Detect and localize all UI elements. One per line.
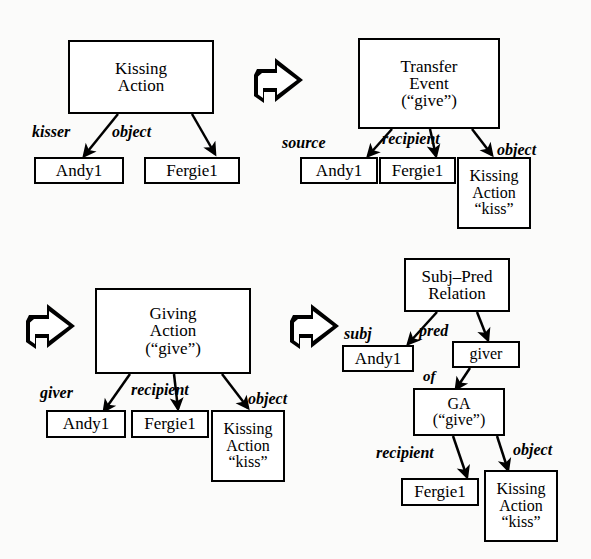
edge-label-recipient: recipient bbox=[131, 381, 189, 399]
node-line: “kiss” bbox=[228, 454, 267, 471]
node-line: Andy1 bbox=[355, 350, 401, 367]
node-line: “kiss” bbox=[501, 514, 540, 531]
fergie1-node[interactable]: Fergie1 bbox=[379, 157, 456, 184]
node-line: (“give”) bbox=[145, 340, 201, 357]
andy1-node[interactable]: Andy1 bbox=[34, 157, 124, 184]
node-line: giver bbox=[470, 346, 503, 362]
transform-arrow-2 bbox=[22, 302, 80, 358]
edge-label-object: object bbox=[112, 123, 151, 141]
ga-give-node[interactable]: GA (“give”) bbox=[413, 388, 505, 436]
edge-label-recipient: recipient bbox=[376, 444, 434, 462]
transform-arrow-1 bbox=[250, 56, 308, 112]
edge-label-kisser: kisser bbox=[32, 123, 70, 141]
node-line: (“give”) bbox=[433, 412, 485, 428]
node-line: GA bbox=[447, 396, 470, 412]
node-line: Andy1 bbox=[63, 415, 109, 432]
node-line: Action bbox=[472, 185, 516, 202]
node-line: (“give”) bbox=[401, 92, 457, 109]
edge-label-object: object bbox=[248, 390, 287, 408]
transform-arrow-3 bbox=[286, 302, 344, 358]
andy1-node[interactable]: Andy1 bbox=[46, 410, 126, 438]
node-line: Action bbox=[118, 77, 164, 94]
edge-label-object: object bbox=[513, 441, 552, 459]
node-line: Fergie1 bbox=[392, 162, 444, 179]
node-line: Event bbox=[409, 75, 449, 92]
node-line: Fergie1 bbox=[414, 483, 466, 500]
edge-label-object: object bbox=[497, 141, 536, 159]
node-line: “kiss” bbox=[474, 201, 513, 218]
kissing-action-node[interactable]: Kissing Action bbox=[68, 40, 214, 114]
node-line: Action bbox=[226, 438, 270, 455]
giving-action-node[interactable]: Giving Action (“give”) bbox=[95, 288, 251, 374]
node-line: Fergie1 bbox=[144, 415, 196, 432]
edge-label-of: of bbox=[423, 368, 436, 385]
node-line: Action bbox=[499, 498, 543, 515]
node-line: Transfer bbox=[401, 58, 458, 75]
giver-node[interactable]: giver bbox=[452, 341, 520, 368]
node-line: Subj–Pred bbox=[422, 268, 493, 285]
node-line: Andy1 bbox=[316, 162, 362, 179]
node-line: Giving bbox=[149, 305, 196, 322]
fergie1-node[interactable]: Fergie1 bbox=[144, 157, 240, 184]
fergie1-node[interactable]: Fergie1 bbox=[401, 478, 479, 506]
node-line: Kissing bbox=[224, 421, 273, 438]
kissing-action-kiss-node[interactable]: Kissing Action “kiss” bbox=[211, 410, 285, 482]
edge-label-recipient: recipient bbox=[382, 130, 440, 148]
kissing-action-kiss-node[interactable]: Kissing Action “kiss” bbox=[484, 470, 558, 542]
node-line: Kissing bbox=[115, 60, 167, 77]
transfer-event-node[interactable]: Transfer Event (“give”) bbox=[358, 38, 500, 129]
andy1-node[interactable]: Andy1 bbox=[300, 157, 378, 184]
edge-label-giver: giver bbox=[40, 384, 73, 402]
node-line: Action bbox=[150, 322, 196, 339]
edge-label-source: source bbox=[282, 134, 326, 152]
edge-label-pred: pred bbox=[419, 322, 448, 340]
kissing-action-kiss-node[interactable]: Kissing Action “kiss” bbox=[457, 157, 531, 229]
fergie1-node[interactable]: Fergie1 bbox=[131, 410, 209, 438]
node-line: Andy1 bbox=[56, 162, 102, 179]
node-line: Kissing bbox=[470, 168, 519, 185]
figure-canvas: Kissing Action kisser object Andy1 Fergi… bbox=[0, 0, 591, 559]
edge-label-subj: subj bbox=[344, 325, 372, 343]
node-line: Kissing bbox=[497, 481, 546, 498]
andy1-node[interactable]: Andy1 bbox=[342, 345, 414, 372]
subj-pred-relation-node[interactable]: Subj–Pred Relation bbox=[404, 258, 510, 312]
node-line: Fergie1 bbox=[166, 162, 218, 179]
node-line: Relation bbox=[428, 285, 486, 302]
